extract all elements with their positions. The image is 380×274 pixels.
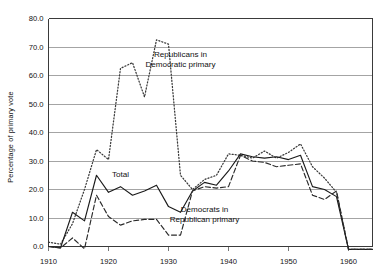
primary-vote-line-chart: 0.010.020.030.040.050.060.070.080.0 1910…	[0, 0, 380, 274]
x-tick-label: 1910	[40, 257, 57, 266]
y-tick-label: 20.0	[29, 185, 44, 194]
x-tick-label: 1940	[220, 257, 237, 266]
y-tick-label: 80.0	[29, 14, 44, 23]
y-tick-label: 60.0	[29, 71, 44, 80]
x-tick-label: 1920	[100, 257, 117, 266]
y-tick-label: 10.0	[29, 214, 44, 223]
x-tick-label: 1960	[340, 257, 357, 266]
series-annotation-label: Total	[112, 170, 129, 179]
chart-annotations: Republicans inDemocratic primaryTotalDem…	[112, 50, 240, 224]
series-annotation-label: Democratic primary	[145, 60, 216, 69]
y-tick-label: 70.0	[29, 43, 44, 52]
series-annotation-label: Democrats in	[181, 205, 229, 214]
y-tick-label: 50.0	[29, 100, 44, 109]
series-annotation-label: Republicans in	[154, 50, 207, 59]
chart-canvas: 0.010.020.030.040.050.060.070.080.0 1910…	[0, 0, 380, 274]
y-tick-label: 30.0	[29, 157, 44, 166]
y-axis-title: Percentage of primary vote	[6, 91, 15, 182]
x-axis-tick-marks	[49, 247, 349, 251]
series-line	[49, 155, 373, 249]
x-tick-label: 1950	[280, 257, 297, 266]
series-line	[49, 154, 373, 249]
x-axis-tick-labels: 191019201930194019501960	[40, 257, 357, 266]
y-tick-label: 40.0	[29, 128, 44, 137]
series-annotation-label: Republican primary	[170, 215, 241, 224]
y-axis-tick-labels: 0.010.020.030.040.050.060.070.080.0	[29, 14, 44, 251]
y-tick-label: 0.0	[33, 242, 44, 251]
x-tick-label: 1930	[160, 257, 177, 266]
